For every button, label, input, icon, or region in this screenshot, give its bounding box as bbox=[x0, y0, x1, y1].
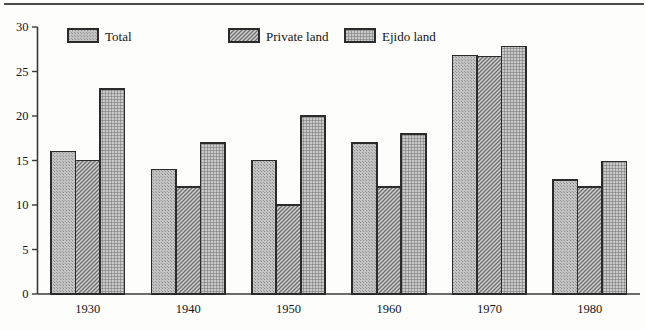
x-tick-label: 1950 bbox=[276, 302, 301, 316]
bars-layer bbox=[51, 47, 627, 294]
legend-label-private-land: Private land bbox=[266, 29, 329, 44]
y-tick-label: 10 bbox=[16, 198, 29, 212]
bar-total-1950 bbox=[252, 161, 277, 295]
chart-legend: TotalPrivate landEjido land bbox=[68, 29, 436, 44]
bar-private-land-1980 bbox=[578, 187, 603, 294]
bar-private-land-1940 bbox=[176, 187, 201, 294]
x-tick-label: 1940 bbox=[176, 302, 201, 316]
bar-total-1980 bbox=[553, 180, 578, 294]
bar-total-1960 bbox=[352, 143, 377, 294]
bar-private-land-1970 bbox=[477, 56, 502, 294]
bar-ejido-land-1970 bbox=[502, 47, 527, 294]
y-tick-label: 0 bbox=[22, 287, 28, 301]
bar-ejido-land-1980 bbox=[602, 161, 627, 294]
bar-total-1940 bbox=[151, 169, 176, 294]
legend-swatch-ejido-land bbox=[345, 29, 375, 42]
bar-ejido-land-1960 bbox=[401, 134, 426, 294]
bar-total-1930 bbox=[51, 152, 75, 294]
x-tick-label: 1970 bbox=[477, 302, 502, 316]
y-tick-label: 5 bbox=[22, 243, 28, 257]
bar-private-land-1950 bbox=[276, 205, 301, 294]
x-tick-label: 1980 bbox=[577, 302, 602, 316]
bar-ejido-land-1930 bbox=[100, 89, 125, 294]
y-tick-label: 20 bbox=[16, 109, 29, 123]
bar-chart: 051015202530 193019401950196019701980 To… bbox=[0, 0, 646, 330]
x-tick-label: 1960 bbox=[376, 302, 401, 316]
y-tick-label: 25 bbox=[16, 65, 29, 79]
legend-label-total: Total bbox=[105, 29, 132, 44]
bar-ejido-land-1950 bbox=[301, 116, 326, 294]
y-tick-label: 15 bbox=[16, 154, 29, 168]
legend-label-ejido-land: Ejido land bbox=[382, 29, 436, 44]
y-axis: 051015202530 bbox=[16, 20, 38, 301]
figure-container: 051015202530 193019401950196019701980 To… bbox=[0, 0, 646, 330]
bar-private-land-1960 bbox=[377, 187, 402, 294]
bar-ejido-land-1940 bbox=[200, 143, 225, 294]
x-axis: 193019401950196019701980 bbox=[38, 294, 641, 316]
y-tick-label: 30 bbox=[16, 20, 29, 34]
legend-swatch-total bbox=[68, 29, 98, 42]
x-tick-label: 1930 bbox=[75, 302, 100, 316]
legend-swatch-private-land bbox=[229, 29, 259, 42]
bar-total-1970 bbox=[453, 55, 478, 294]
bar-private-land-1930 bbox=[75, 161, 100, 295]
